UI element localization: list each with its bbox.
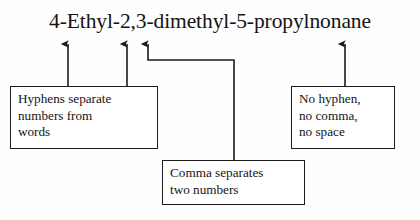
callout-no-separator-line-2: no comma, <box>299 108 394 125</box>
callout-comma-line-1: Comma separates <box>170 165 304 182</box>
callout-hyphens: Hyphens separate numbers from words <box>10 86 158 149</box>
arrow-to-comma <box>148 44 234 160</box>
callout-no-separator-line-1: No hyphen, <box>299 91 394 108</box>
callout-hyphens-line-3: words <box>18 124 157 141</box>
callout-no-separator: No hyphen, no comma, no space <box>291 86 395 149</box>
callout-hyphens-line-1: Hyphens separate <box>18 91 157 108</box>
callout-no-separator-line-3: no space <box>299 124 394 141</box>
diagram-canvas: 4-Ethyl-2,3-dimethyl-5-propylnonane Hyph… <box>0 0 420 220</box>
callout-hyphens-line-2: numbers from <box>18 108 157 125</box>
iupac-name-title: 4-Ethyl-2,3-dimethyl-5-propylnonane <box>0 9 420 33</box>
callout-comma: Comma separates two numbers <box>162 160 305 205</box>
callout-comma-line-2: two numbers <box>170 182 304 199</box>
